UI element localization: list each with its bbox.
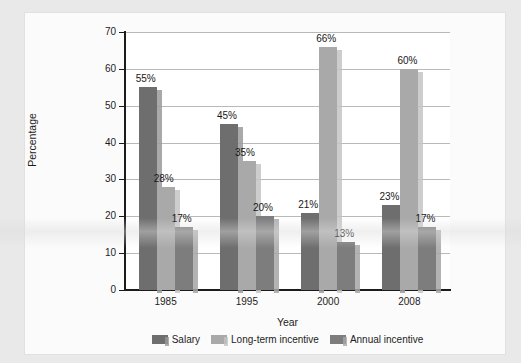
chart-legend: SalaryLong-term incentiveAnnual incentiv… [125, 334, 450, 345]
gridline [125, 32, 450, 33]
bar [256, 216, 274, 290]
x-tick-label: 2008 [374, 296, 444, 307]
legend-swatch-shadow [165, 337, 169, 346]
bar-data-label: 17% [415, 214, 435, 224]
bar [157, 187, 175, 290]
bar [175, 227, 193, 290]
bar-data-label: 13% [334, 229, 354, 239]
bar [382, 205, 400, 290]
bar-data-label: 28% [154, 174, 174, 184]
bar [400, 69, 418, 290]
y-tick-label: 70 [90, 27, 116, 37]
bar-data-label: 60% [397, 56, 417, 66]
legend-swatch-icon [152, 335, 168, 344]
bar-shadow [193, 230, 198, 293]
legend-swatch-icon [211, 335, 227, 344]
y-axis-title: Percentage [26, 80, 38, 200]
legend-swatch-shadow [343, 337, 347, 346]
bar-data-label: 23% [379, 192, 399, 202]
legend-swatch-shadow [224, 337, 228, 346]
bar-body [400, 69, 418, 290]
bar-data-label: 55% [136, 74, 156, 84]
bar [319, 47, 337, 290]
y-tick-label: 40 [90, 138, 116, 148]
grouped-bar-chart: 010203040506070 Percentage 55%28%17%45%3… [0, 0, 521, 363]
y-tick-label: 10 [90, 248, 116, 258]
legend-item[interactable]: Annual incentive [330, 334, 423, 345]
bar-body [157, 187, 175, 290]
bar [301, 213, 319, 290]
bar [238, 161, 256, 290]
bar-body [382, 205, 400, 290]
y-tick-label: 50 [90, 101, 116, 111]
bar-data-label: 66% [316, 34, 336, 44]
bar-shadow [355, 245, 360, 293]
bar-data-label: 17% [172, 214, 192, 224]
bar-data-label: 21% [298, 200, 318, 210]
bar-body [238, 161, 256, 290]
x-tick-label: 1995 [212, 296, 282, 307]
legend-item[interactable]: Salary [152, 334, 200, 345]
y-tick-label: 0 [90, 285, 116, 295]
legend-swatch-icon [330, 335, 346, 344]
bar-data-label: 35% [235, 148, 255, 158]
legend-label: Annual incentive [350, 334, 423, 345]
y-tick-label: 30 [90, 174, 116, 184]
y-tick-label: 20 [90, 211, 116, 221]
bar [139, 87, 157, 290]
x-tick-label: 1985 [131, 296, 201, 307]
bar-body [418, 227, 436, 290]
bar-body [301, 213, 319, 290]
legend-label: Salary [172, 334, 200, 345]
bar-body [139, 87, 157, 290]
bar-shadow [274, 219, 279, 293]
y-axis-line [124, 31, 126, 291]
bar [418, 227, 436, 290]
y-tick-label: 60 [90, 64, 116, 74]
legend-label: Long-term incentive [231, 334, 319, 345]
bar-data-label: 45% [217, 111, 237, 121]
legend-item[interactable]: Long-term incentive [211, 334, 319, 345]
bar-shadow [436, 230, 441, 293]
x-tick-label: 2000 [293, 296, 363, 307]
bar-body [337, 242, 355, 290]
x-axis-title: Year [125, 316, 450, 328]
bar-body [319, 47, 337, 290]
bar-body [175, 227, 193, 290]
bar [337, 242, 355, 290]
bar-body [256, 216, 274, 290]
bar-data-label: 20% [253, 203, 273, 213]
